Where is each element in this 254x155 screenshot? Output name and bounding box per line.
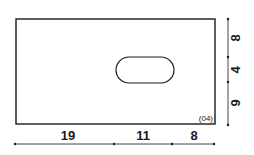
dim-label-top: 8 <box>228 34 243 41</box>
dim-label-middle: 4 <box>228 66 243 74</box>
dim-label-left: 19 <box>61 128 75 143</box>
part-id-label: (04) <box>199 114 214 123</box>
vertical-dimension: 8 4 9 <box>227 18 243 126</box>
dim-label-right: 8 <box>190 128 197 143</box>
technical-drawing: 8 4 9 19 11 8 (04) <box>0 0 254 155</box>
horizontal-dimension: 19 11 8 <box>14 128 215 145</box>
dim-label-center: 11 <box>136 128 150 143</box>
slot-cutout <box>116 57 174 83</box>
dim-label-bottom: 9 <box>228 99 243 106</box>
